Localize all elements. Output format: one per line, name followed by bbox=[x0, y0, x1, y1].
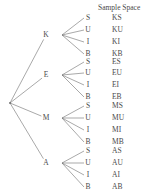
leaf-e-u: U bbox=[85, 69, 90, 77]
leaf-m-i: I bbox=[87, 126, 90, 134]
edge-a-to-s bbox=[62, 151, 84, 163]
node-a-label: A bbox=[43, 159, 48, 167]
leaf-a-u: U bbox=[85, 159, 90, 167]
leaf-m-b: B bbox=[85, 138, 90, 146]
edge-m-to-b bbox=[62, 118, 84, 142]
leaf-k-i: I bbox=[87, 38, 90, 46]
outcome-mi: MI bbox=[112, 126, 121, 134]
outcome-ks: KS bbox=[112, 14, 122, 22]
edge-root-to-m bbox=[10, 103, 41, 116]
outcome-ai: AI bbox=[112, 171, 120, 179]
edge-k-to-i bbox=[62, 35, 84, 42]
outcome-as: AS bbox=[112, 147, 122, 155]
outcome-eb: EB bbox=[112, 93, 122, 101]
leaf-a-b: B bbox=[85, 183, 90, 191]
leaf-a-i: I bbox=[87, 171, 90, 179]
outcome-mu: MU bbox=[112, 114, 124, 122]
edge-e-to-b bbox=[62, 75, 84, 97]
leaf-k-s: S bbox=[86, 14, 90, 22]
node-m-label: M bbox=[43, 114, 50, 122]
node-k-label: K bbox=[43, 31, 48, 39]
edge-e-to-i bbox=[62, 75, 84, 85]
edge-a-to-i bbox=[62, 163, 84, 175]
root-node bbox=[9, 102, 11, 104]
probability-tree-diagram: Sample Space KEMA SUIBSUIBSUIBSUIB KSKUK… bbox=[0, 0, 156, 194]
leaf-a-s: S bbox=[86, 147, 90, 155]
outcome-ku: KU bbox=[112, 26, 123, 34]
sample-space-header: Sample Space bbox=[98, 3, 140, 12]
outcome-ab: AB bbox=[112, 183, 122, 191]
outcome-mb: MB bbox=[112, 138, 124, 146]
tree-edges bbox=[0, 0, 156, 194]
edge-root-to-e bbox=[10, 78, 42, 103]
leaf-k-u: U bbox=[85, 26, 90, 34]
leaf-m-u: U bbox=[85, 114, 90, 122]
leaf-e-i: I bbox=[87, 81, 90, 89]
outcome-ms: MS bbox=[112, 102, 123, 110]
edge-k-to-b bbox=[62, 35, 84, 54]
outcome-es: ES bbox=[112, 58, 121, 66]
leaf-e-b: B bbox=[85, 93, 90, 101]
edge-m-to-i bbox=[62, 118, 84, 130]
edge-root-to-a bbox=[10, 103, 43, 159]
edge-root-to-k bbox=[10, 39, 44, 103]
edge-m-to-s bbox=[62, 106, 84, 118]
outcome-ki: KI bbox=[112, 38, 120, 46]
node-e-label: E bbox=[44, 71, 49, 79]
outcome-ei: EI bbox=[112, 81, 119, 89]
leaf-m-s: S bbox=[86, 102, 90, 110]
outcome-au: AU bbox=[112, 159, 123, 167]
leaf-e-s: S bbox=[86, 58, 90, 66]
edge-a-to-b bbox=[62, 163, 84, 187]
outcome-eu: EU bbox=[112, 69, 122, 77]
